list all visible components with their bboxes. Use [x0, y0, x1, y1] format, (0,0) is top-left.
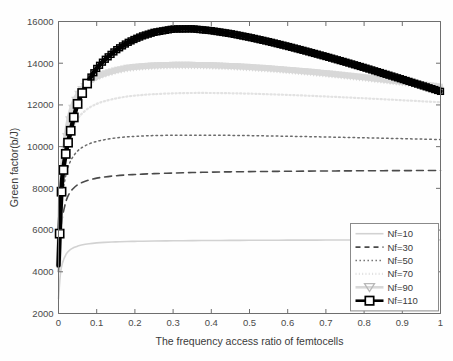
legend-label: Nf=30	[388, 242, 414, 253]
y-tick-label: 4000	[32, 266, 53, 277]
x-axis-label: The frequency access ratio of femtocells	[156, 335, 344, 347]
chart-canvas: 00.10.20.30.40.50.60.70.80.9120004000600…	[0, 0, 453, 361]
figure-container: 00.10.20.30.40.50.60.70.80.9120004000600…	[0, 0, 453, 361]
x-tick-label: 0	[56, 317, 61, 328]
legend-item-nf-110[interactable]: Nf=110	[356, 295, 418, 306]
x-tick-label: 1	[438, 317, 443, 328]
legend-label: Nf=10	[388, 228, 414, 239]
x-tick-label: 0.7	[319, 317, 332, 328]
markers-nf-110	[56, 26, 444, 238]
y-tick-label: 12000	[27, 99, 53, 110]
y-tick-label: 14000	[27, 58, 53, 69]
y-tick-label: 2000	[32, 308, 53, 319]
legend-label: Nf=50	[388, 255, 414, 266]
legend-label: Nf=110	[388, 295, 418, 306]
x-tick-label: 0.2	[128, 317, 141, 328]
x-tick-label: 0.4	[205, 317, 218, 328]
x-tick-label: 0.8	[357, 317, 370, 328]
legend[interactable]: Nf=10Nf=30Nf=50Nf=70Nf=90Nf=110	[351, 224, 439, 311]
y-tick-label: 16000	[27, 16, 53, 27]
legend-marker-square	[365, 297, 373, 305]
x-tick-label: 0.9	[396, 317, 409, 328]
x-tick-label: 0.3	[166, 317, 179, 328]
y-axis-label: Green factor(b/J)	[8, 128, 20, 207]
legend-label: Nf=70	[388, 268, 414, 279]
legend-label: Nf=90	[388, 282, 414, 293]
x-tick-label: 0.1	[90, 317, 103, 328]
y-tick-label: 10000	[27, 141, 53, 152]
y-tick-label: 6000	[32, 224, 53, 235]
x-tick-label: 0.6	[281, 317, 294, 328]
y-tick-label: 8000	[32, 183, 53, 194]
x-tick-label: 0.5	[243, 317, 256, 328]
